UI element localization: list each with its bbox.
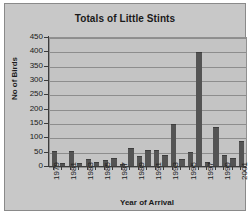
bar-slot [203,38,212,167]
bar-slot [110,38,119,167]
x-label-slot: 1981 [66,170,75,196]
x-label-slot: 1991 [151,170,160,196]
y-axis-tick-label: 150 [9,119,43,127]
bar-slot [186,38,195,167]
x-label-slot: 1987 [117,170,126,196]
x-label-slot: 1979 [49,170,58,196]
y-axis-tick [44,66,48,67]
bar-slot [127,38,136,167]
bar-slot [237,38,246,167]
plot-area [49,37,247,168]
bar[interactable] [128,148,133,167]
x-label-slot: 2001 [236,170,245,196]
chart-frame: Totals of Little Stints 4504003503002502… [4,3,246,211]
bar[interactable] [171,124,176,167]
bar-slot [101,38,110,167]
x-axis-tick-label: 2001 [241,162,249,180]
y-axis-tick-label: 0 [9,162,43,170]
x-label-slot [194,170,203,196]
x-label-slot: 1993 [168,170,177,196]
y-axis-tick [44,80,48,81]
x-label-slot [58,170,67,196]
x-label-slot [126,170,135,196]
bar-slot [212,38,221,167]
x-label-slot [177,170,186,196]
bar[interactable] [145,150,150,167]
bar-slot [93,38,102,167]
y-axis-title: No of Birds [10,47,19,111]
x-label-slot [228,170,237,196]
y-axis-tick [44,152,48,153]
bar-slot [50,38,59,167]
bar-slot [220,38,229,167]
x-label-slot [75,170,84,196]
y-axis-tick [44,51,48,52]
y-axis-tick [44,94,48,95]
bar-slot [59,38,68,167]
bar-slot [229,38,238,167]
bar[interactable] [196,52,201,167]
x-axis-tick-labels: 1979198119831985198719891991199319951997… [49,170,245,196]
x-label-slot: 1985 [100,170,109,196]
x-label-slot [211,170,220,196]
y-axis-tick-label: 100 [9,133,43,141]
bar-slot [118,38,127,167]
x-axis-title: Year of Arrival [49,198,245,207]
x-label-slot: 1997 [202,170,211,196]
bar-series [50,38,246,167]
x-label-slot [92,170,101,196]
bar-slot [169,38,178,167]
bar-slot [76,38,85,167]
y-axis-tick [44,109,48,110]
bar-slot [152,38,161,167]
x-label-slot [109,170,118,196]
bar-slot [84,38,93,167]
x-label-slot: 1983 [83,170,92,196]
bar-slot [144,38,153,167]
chart-figure: Totals of Little Stints 4504003503002502… [0,0,250,215]
y-axis-tick [44,166,48,167]
y-axis-tick-label: 50 [9,148,43,156]
x-label-slot [160,170,169,196]
x-label-slot [143,170,152,196]
bar-slot [161,38,170,167]
x-label-slot: 1999 [219,170,228,196]
y-axis-tick [44,123,48,124]
x-label-slot: 1995 [185,170,194,196]
y-axis-tick [44,137,48,138]
bar-slot [135,38,144,167]
x-label-slot: 1989 [134,170,143,196]
bar-slot [178,38,187,167]
y-axis-tick-label: 450 [9,33,43,41]
bar-slot [67,38,76,167]
bar-slot [195,38,204,167]
y-axis-tick [44,37,48,38]
